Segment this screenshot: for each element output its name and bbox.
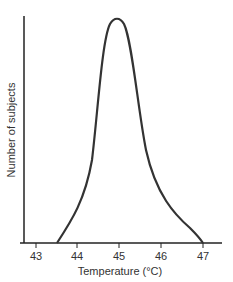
x-tick-label: 44 <box>71 250 83 262</box>
x-axis-label: Temperature (°C) <box>78 265 162 277</box>
chart-container: 43 44 45 46 47 Temperature (°C) Number o… <box>0 0 233 282</box>
x-tick-label: 47 <box>197 250 209 262</box>
x-tick-label: 46 <box>155 250 167 262</box>
y-axis-label: Number of subjects <box>5 82 17 177</box>
chart-svg: 43 44 45 46 47 Temperature (°C) Number o… <box>0 0 233 282</box>
x-tick-label: 43 <box>30 250 42 262</box>
x-tick-label: 45 <box>113 250 125 262</box>
distribution-curve <box>57 19 203 243</box>
